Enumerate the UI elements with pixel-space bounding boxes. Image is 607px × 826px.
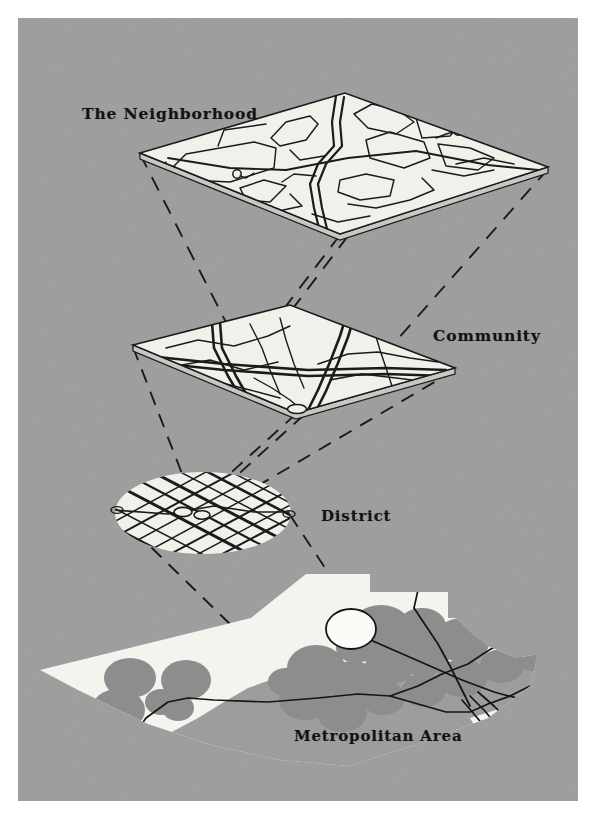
highlighted-district-marker <box>326 609 376 649</box>
figure-root: The Neighborhood Community District Metr… <box>0 0 607 826</box>
hierarchy-diagram <box>18 18 578 801</box>
community-interchange-icon <box>288 404 307 413</box>
label-neighborhood: The Neighborhood <box>82 104 258 123</box>
district-blob <box>268 668 304 696</box>
label-metropolitan: Metropolitan Area <box>294 727 462 745</box>
diagram-plate: The Neighborhood Community District Metr… <box>18 18 578 801</box>
district-interchange-icon <box>174 507 192 516</box>
label-district: District <box>321 507 391 525</box>
district-interchange-icon <box>194 511 210 519</box>
district-blob <box>161 660 211 700</box>
label-community: Community <box>433 326 541 345</box>
